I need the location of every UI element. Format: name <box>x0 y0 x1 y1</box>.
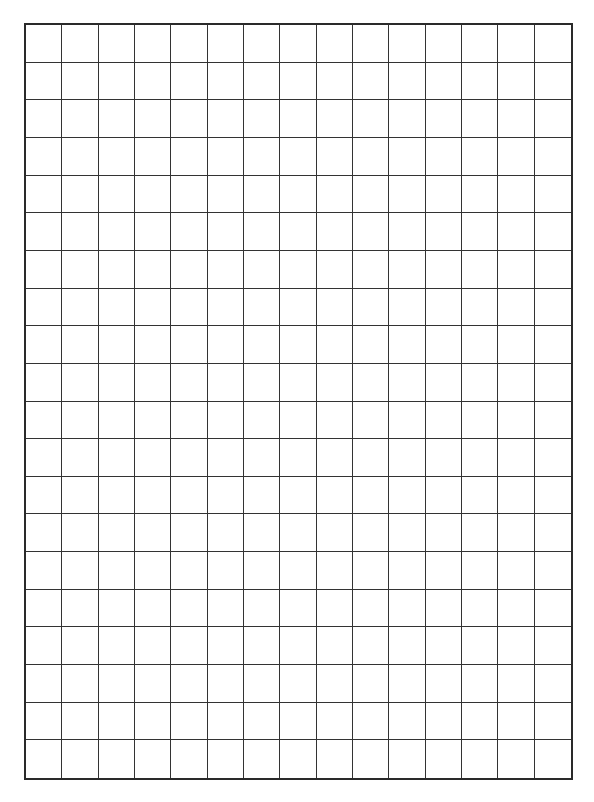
grid-cell <box>389 703 425 741</box>
grid-cell <box>135 326 171 364</box>
grid-cell <box>171 289 207 327</box>
grid-cell <box>426 590 462 628</box>
grid-cell <box>135 590 171 628</box>
grid-cell <box>535 364 571 402</box>
grid-cell <box>498 590 534 628</box>
grid-cell <box>426 138 462 176</box>
grid-cell <box>353 326 389 364</box>
grid-cell <box>462 176 498 214</box>
grid-cell <box>389 590 425 628</box>
grid-cell <box>317 590 353 628</box>
grid-cell <box>280 477 316 515</box>
grid-cell <box>208 25 244 63</box>
grid-cell <box>171 514 207 552</box>
grid-cell <box>99 176 135 214</box>
grid-cell <box>353 402 389 440</box>
grid-cell <box>353 740 389 778</box>
grid-cell <box>498 740 534 778</box>
grid-cell <box>426 63 462 101</box>
grid-cell <box>99 63 135 101</box>
grid-cell <box>244 477 280 515</box>
grid-cell <box>280 402 316 440</box>
grid-cell <box>498 477 534 515</box>
grid-cell <box>353 477 389 515</box>
grid-cell <box>462 703 498 741</box>
grid-cell <box>535 477 571 515</box>
grid-cell <box>26 364 62 402</box>
grid-cell <box>353 364 389 402</box>
grid-cell <box>535 176 571 214</box>
grid-cell <box>389 213 425 251</box>
grid-cell <box>62 665 98 703</box>
grid-cell <box>535 740 571 778</box>
grid-cell <box>135 213 171 251</box>
grid-cell <box>498 100 534 138</box>
grid-cell <box>353 25 389 63</box>
grid-cell <box>498 402 534 440</box>
grid-cell <box>171 665 207 703</box>
grid-cell <box>26 703 62 741</box>
grid-cell <box>426 439 462 477</box>
grid-cell <box>317 740 353 778</box>
grid-cell <box>135 251 171 289</box>
grid-cell <box>317 665 353 703</box>
grid-cell <box>535 590 571 628</box>
grid-cell <box>353 703 389 741</box>
grid-cell <box>280 176 316 214</box>
grid-cell <box>171 176 207 214</box>
grid-cell <box>498 439 534 477</box>
grid-cell <box>244 25 280 63</box>
grid-cell <box>498 665 534 703</box>
grid-cell <box>99 326 135 364</box>
grid-cell <box>171 477 207 515</box>
grid-cell <box>280 251 316 289</box>
grid-cell <box>171 326 207 364</box>
grid-cell <box>535 326 571 364</box>
grid-cell <box>171 590 207 628</box>
grid-cell <box>535 514 571 552</box>
grid-cell <box>244 289 280 327</box>
grid-cell <box>135 703 171 741</box>
grid-cell <box>99 590 135 628</box>
grid-cell <box>208 740 244 778</box>
grid-cell <box>317 63 353 101</box>
grid-cell <box>26 176 62 214</box>
grid-cell <box>62 289 98 327</box>
grid-cell <box>317 289 353 327</box>
grid-cell <box>244 590 280 628</box>
grid-cell <box>208 364 244 402</box>
grid-cell <box>353 665 389 703</box>
grid-cell <box>498 25 534 63</box>
grid-cell <box>462 590 498 628</box>
grid-cell <box>280 213 316 251</box>
grid-cell <box>317 552 353 590</box>
grid-cell <box>26 251 62 289</box>
grid-cell <box>498 552 534 590</box>
grid-cell <box>280 665 316 703</box>
grid-cell <box>62 477 98 515</box>
grid-cell <box>462 514 498 552</box>
grid-cell <box>280 590 316 628</box>
grid-cell <box>208 703 244 741</box>
grid-cell <box>498 703 534 741</box>
grid-cell <box>426 251 462 289</box>
grid-cell <box>389 514 425 552</box>
grid-cell <box>535 100 571 138</box>
grid-cell <box>244 251 280 289</box>
grid-cell <box>135 289 171 327</box>
grid-cell <box>426 25 462 63</box>
grid-cell <box>99 402 135 440</box>
grid-cell <box>99 514 135 552</box>
grid-cell <box>135 665 171 703</box>
grid-cell <box>135 63 171 101</box>
grid-cell <box>244 176 280 214</box>
grid-cell <box>26 665 62 703</box>
grid-cell <box>462 665 498 703</box>
grid-cell <box>462 477 498 515</box>
grid-cell <box>280 138 316 176</box>
grid-cell <box>26 63 62 101</box>
grid-cell <box>135 439 171 477</box>
grid-cell <box>99 213 135 251</box>
grid-cell <box>208 439 244 477</box>
grid-cell <box>462 326 498 364</box>
